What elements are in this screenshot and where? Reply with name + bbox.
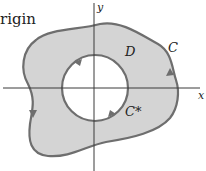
y-axis-label: y [97, 2, 103, 13]
region-label-d: D [125, 45, 135, 58]
x-axis-label: x [198, 90, 204, 101]
annular-region-diagram: rigin y x D C C* [0, 0, 206, 171]
partial-caption-text: rigin [0, 12, 36, 27]
inner-curve-label-c-star: C* [125, 105, 141, 118]
outer-curve-label-c: C [168, 41, 178, 54]
